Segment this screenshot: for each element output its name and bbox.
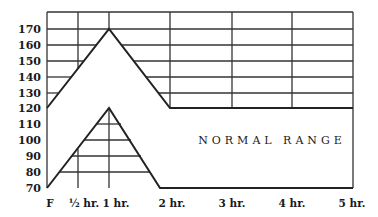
upper-limit-curve [47, 29, 353, 108]
glucose-tolerance-chart: 170 160 150 140 130 120 110 100 90 80 70… [0, 0, 378, 217]
svg-text:5 hr.: 5 hr. [339, 197, 366, 209]
svg-text:150: 150 [18, 55, 41, 68]
svg-text:120: 120 [18, 102, 41, 115]
gridlines [47, 12, 353, 188]
svg-text:F: F [46, 197, 54, 209]
svg-text:170: 170 [18, 23, 41, 36]
svg-text:2 hr.: 2 hr. [159, 197, 186, 209]
svg-text:110: 110 [18, 118, 41, 131]
svg-text:70: 70 [26, 182, 42, 195]
range-curves [47, 29, 353, 188]
x-axis-labels: F ½ hr. 1 hr. 2 hr. 3 hr. 4 hr. 5 hr. [46, 197, 365, 209]
svg-text:160: 160 [18, 39, 41, 52]
svg-text:90: 90 [26, 150, 42, 163]
normal-range-label: NORMAL RANGE [198, 134, 346, 147]
svg-text:3 hr.: 3 hr. [219, 197, 246, 209]
y-axis-labels: 170 160 150 140 130 120 110 100 90 80 70 [18, 23, 41, 195]
svg-text:80: 80 [26, 166, 42, 179]
svg-text:1 hr.: 1 hr. [103, 197, 130, 209]
svg-text:130: 130 [18, 87, 41, 100]
svg-text:100: 100 [18, 134, 41, 147]
svg-text:4 hr.: 4 hr. [279, 197, 306, 209]
lower-limit-curve [47, 108, 353, 188]
svg-text:½ hr.: ½ hr. [69, 197, 99, 209]
svg-text:140: 140 [18, 71, 41, 84]
